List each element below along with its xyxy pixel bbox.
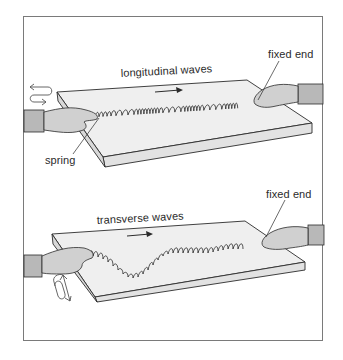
diagram-stage: longitudinal waves fixed end spring tran…: [0, 0, 343, 360]
top-panel: [24, 61, 323, 167]
right-hand: [254, 84, 323, 107]
fixed-end-label-top: fixed end: [268, 48, 314, 60]
side-to-side-motion-icon: [54, 274, 71, 301]
fixed-end-label-bottom: fixed end: [266, 188, 312, 200]
spring-label: spring: [45, 154, 76, 166]
bottom-slab: [52, 221, 305, 302]
back-forth-motion-icon: [30, 84, 52, 105]
right-hand: [262, 225, 324, 249]
